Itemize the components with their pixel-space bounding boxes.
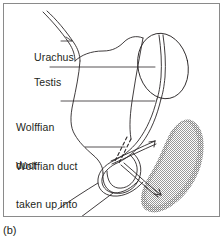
label-trigone-line1: Wolffian duct (16, 160, 78, 173)
label-testis: Testis (16, 63, 61, 101)
figure-caption: (b) (3, 224, 16, 236)
figure-container: Urachus Testis Wolffian duct Wolffian du… (0, 0, 223, 244)
label-urachus-text: Urachus (34, 51, 74, 63)
label-testis-text: Testis (34, 76, 61, 88)
label-wolffian-duct-line1: Wolffian (16, 121, 54, 134)
label-wolffian-duct-trigone: Wolffian duct taken up into trigone (16, 135, 78, 217)
illustration-panel: Urachus Testis Wolffian duct Wolffian du… (3, 3, 220, 217)
stippled-kidney-mass (141, 119, 204, 212)
label-trigone-line2: taken up into (16, 198, 78, 211)
testis-oval (132, 29, 195, 104)
